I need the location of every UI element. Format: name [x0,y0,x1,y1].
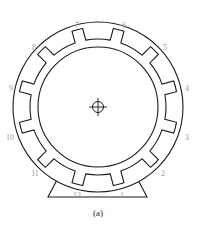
slot-label-12: 12 [73,191,81,200]
slot-label-10: 10 [6,133,14,142]
slot-label-2: 2 [161,169,165,178]
slot-label-6: 6 [122,21,126,30]
figure-caption: (a) [93,208,103,218]
slot-label-8: 8 [32,43,36,52]
diagram-canvas: 123456789101112 (a) [0,0,200,226]
slot-label-9: 9 [9,84,13,93]
slot-label-1: 1 [120,191,124,200]
slot-label-3: 3 [185,133,189,142]
slot-label-11: 11 [31,169,39,178]
slot-label-7: 7 [75,21,79,30]
slot-label-5: 5 [163,43,167,52]
slot-label-4: 4 [185,84,189,93]
